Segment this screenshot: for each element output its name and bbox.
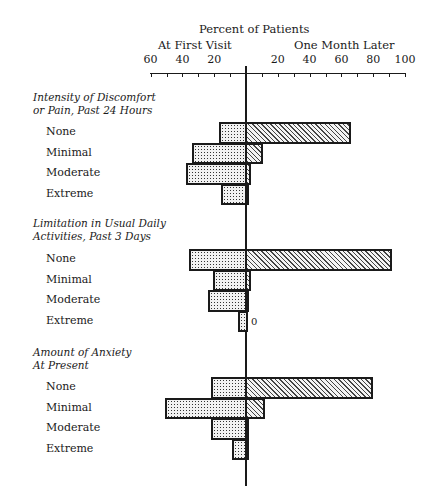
tick-mark — [167, 73, 168, 77]
bar-first-visit — [211, 418, 248, 440]
category-label: None — [46, 380, 76, 393]
tick-label-right: 60 — [334, 53, 348, 66]
tick-mark — [389, 73, 390, 77]
tick-mark — [405, 73, 406, 77]
tick-mark — [357, 73, 358, 77]
group-title-line: Activities, Past 3 Days — [33, 230, 213, 243]
bar-one-month-later — [245, 143, 263, 165]
bar-one-month-later — [245, 398, 265, 420]
category-label: Minimal — [46, 146, 92, 159]
tick-mark — [326, 73, 327, 77]
zero-annotation: 0 — [251, 316, 257, 327]
category-label: Moderate — [46, 293, 100, 306]
bar-one-month-later — [245, 163, 251, 185]
tick-mark — [230, 73, 231, 77]
category-label: None — [46, 252, 76, 265]
category-label: Moderate — [46, 166, 100, 179]
tick-mark — [198, 73, 199, 77]
bar-first-visit — [211, 377, 248, 399]
bar-first-visit — [219, 122, 248, 144]
tick-label-right: 80 — [366, 53, 380, 66]
bar-first-visit — [208, 290, 248, 312]
bar-first-visit — [192, 143, 248, 165]
tick-mark — [341, 73, 342, 77]
category-label: None — [46, 125, 76, 138]
bar-one-month-later — [245, 439, 249, 461]
group-title-line: Limitation in Usual Daily — [33, 217, 213, 230]
category-label: Extreme — [46, 187, 93, 200]
tick-label-left: 60 — [144, 53, 158, 66]
category-label: Extreme — [46, 314, 93, 327]
category-label: Minimal — [46, 273, 92, 286]
axis-title: Percent of Patients — [199, 22, 309, 36]
group-title-line: Intensity of Discomfort — [33, 91, 213, 104]
bar-first-visit — [189, 249, 248, 271]
bar-one-month-later — [245, 418, 249, 440]
bar-first-visit — [213, 270, 248, 292]
category-label: Extreme — [46, 442, 93, 455]
group-title-line: At Present — [33, 359, 213, 372]
right-axis-label: One Month Later — [294, 38, 395, 52]
tick-mark — [373, 73, 374, 77]
bar-one-month-later — [245, 184, 249, 206]
group-title: Intensity of Discomfortor Pain, Past 24 … — [33, 91, 213, 117]
category-label: Minimal — [46, 401, 92, 414]
category-label: Moderate — [46, 421, 100, 434]
tick-mark — [310, 73, 311, 77]
bar-one-month-later — [245, 249, 392, 271]
bar-one-month-later — [245, 290, 249, 312]
group-title-line: or Pain, Past 24 Hours — [33, 104, 213, 117]
tick-label-right: 20 — [271, 53, 285, 66]
tick-mark — [151, 73, 152, 77]
tick-label-right: 40 — [303, 53, 317, 66]
tick-mark — [262, 73, 263, 77]
group-title: Limitation in Usual DailyActivities, Pas… — [33, 217, 213, 243]
bar-one-month-later — [245, 270, 251, 292]
bar-first-visit — [238, 311, 248, 333]
left-axis-label: At First Visit — [158, 38, 232, 52]
bar-one-month-later — [245, 377, 373, 399]
group-title: Amount of AnxietyAt Present — [33, 346, 213, 372]
tick-mark — [214, 73, 215, 77]
tick-label-left: 20 — [207, 53, 221, 66]
bar-first-visit — [221, 184, 248, 206]
tick-label-left: 40 — [175, 53, 189, 66]
tick-mark — [182, 73, 183, 77]
tick-label-right: 100 — [395, 53, 416, 66]
bar-first-visit — [165, 398, 248, 420]
group-title-line: Amount of Anxiety — [33, 346, 213, 359]
bar-first-visit — [186, 163, 248, 185]
tick-mark — [278, 73, 279, 77]
tick-mark — [294, 73, 295, 77]
bar-one-month-later — [245, 122, 351, 144]
